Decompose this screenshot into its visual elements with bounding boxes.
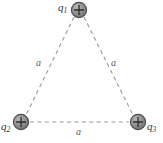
edge-q1-q2 bbox=[26, 17, 74, 115]
side-label-left: a bbox=[36, 58, 41, 68]
charge-q1 bbox=[71, 2, 86, 17]
charge-label-q3: q3 bbox=[147, 121, 156, 132]
triangle-edges bbox=[26, 17, 133, 122]
charge-label-q3-subscript: 3 bbox=[153, 125, 157, 134]
charge-label-q1-subscript: 1 bbox=[64, 6, 68, 15]
charge-triangle-figure: q1 q2 q3 a a a bbox=[0, 0, 163, 143]
charge-label-q2-subscript: 2 bbox=[7, 125, 11, 134]
charge-q3 bbox=[130, 114, 145, 129]
figure-canvas bbox=[0, 0, 163, 143]
side-label-right: a bbox=[111, 58, 116, 68]
charge-q2 bbox=[13, 114, 28, 129]
edge-q1-q3 bbox=[84, 17, 133, 115]
charge-label-q2: q2 bbox=[1, 121, 10, 132]
charge-label-q1: q1 bbox=[58, 2, 67, 13]
side-label-bottom: a bbox=[76, 127, 81, 137]
